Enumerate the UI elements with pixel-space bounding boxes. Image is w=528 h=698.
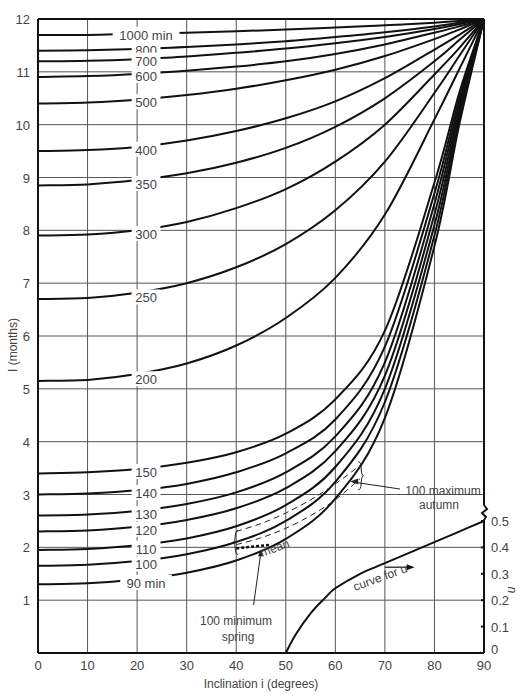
x-tick-label: 60 (328, 658, 342, 673)
curve-label: 110 (136, 542, 157, 557)
y2-tick-label: 0.4 (491, 540, 509, 555)
min-spring-arrow (254, 551, 261, 605)
y-tick-label: 3 (23, 488, 30, 503)
min-spring-label-2: spring (222, 630, 255, 644)
x-axis-label: Inclination i (degrees) (204, 677, 319, 691)
curve-label: 700 (135, 54, 157, 69)
curve-label: 150 (135, 465, 157, 480)
grid-lines (38, 19, 484, 653)
y2-tick-label: 0.5 (491, 514, 509, 529)
y-axis-label: I (months) (6, 318, 20, 372)
y-tick-label: 10 (16, 118, 30, 133)
x-tick-label: 30 (179, 658, 193, 673)
y-tick-label: 4 (23, 435, 30, 450)
period-curve (38, 19, 484, 61)
x-tick-label: 80 (427, 658, 441, 673)
x-tick-label: 70 (378, 658, 392, 673)
period-curve (38, 19, 484, 473)
x-tick-label: 10 (80, 658, 94, 673)
min-spring-label-1: 100 minimum (200, 614, 272, 628)
curve-label: 120 (135, 523, 157, 538)
curve-label: 500 (135, 95, 157, 110)
curve-label: 350 (135, 177, 157, 192)
curve-label: 600 (135, 69, 157, 84)
curve-label: 400 (135, 143, 157, 158)
y2-tick-label: 0 (491, 642, 498, 657)
y-tick-label: 5 (23, 382, 30, 397)
curve-label: 130 (135, 507, 157, 522)
period-curves (38, 19, 484, 584)
axes: 010203040506070809012345678910111200.10.… (16, 12, 510, 673)
y2-tick-label: 0.2 (491, 593, 509, 608)
max-autumn-arrow (353, 482, 400, 489)
y2-axis-label: u (504, 586, 518, 593)
curve-label: 300 (135, 227, 157, 242)
x-tick-label: 90 (477, 658, 491, 673)
curve-label: 250 (135, 290, 157, 305)
max-bracket (358, 462, 363, 490)
y-tick-label: 8 (23, 223, 30, 238)
y-tick-label: 9 (23, 171, 30, 186)
y-tick-label: 1 (23, 593, 30, 608)
curve-label: 200 (135, 372, 157, 387)
period-curve (38, 19, 484, 532)
y-tick-label: 6 (23, 329, 30, 344)
y2-tick-label: 0.1 (491, 620, 509, 635)
arrow-right-icon (407, 564, 415, 570)
x-tick-label: 50 (279, 658, 293, 673)
curve-label: 1000 min (119, 28, 172, 43)
y-tick-label: 7 (23, 276, 30, 291)
curve-label: 140 (135, 486, 157, 501)
inclination-period-chart: 010203040506070809012345678910111200.10.… (0, 0, 528, 698)
y2-tick-label: 0.3 (491, 567, 509, 582)
max-autumn-label-2: autumn (419, 498, 459, 512)
period-curve (38, 19, 484, 550)
y-tick-label: 2 (23, 540, 30, 555)
curve-label: 100 (135, 557, 157, 572)
y-tick-label: 11 (17, 65, 31, 80)
mean-label: mean (258, 536, 291, 559)
max-autumn-label-1: 100 maximum (405, 484, 480, 498)
x-tick-label: 20 (130, 658, 144, 673)
curve-label: 90 min (127, 576, 166, 591)
x-tick-label: 40 (229, 658, 243, 673)
axis-break-icon (482, 505, 487, 653)
y-tick-label: 12 (16, 12, 30, 27)
x-tick-label: 0 (34, 658, 41, 673)
